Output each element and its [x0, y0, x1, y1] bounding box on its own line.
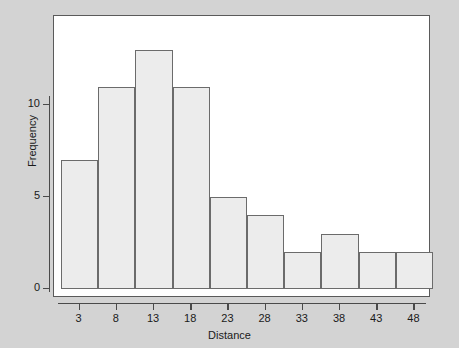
histogram-figure: 0510 Frequency 381318232833384348 Distan… — [0, 0, 459, 348]
y-axis-tick — [43, 288, 49, 289]
x-axis-tick-label: 43 — [361, 312, 391, 324]
y-axis-title: Frequency — [26, 101, 38, 181]
y-axis-tick — [43, 104, 49, 105]
x-axis-tick-label: 38 — [324, 312, 354, 324]
x-axis-tick — [79, 304, 80, 310]
histogram-bar — [247, 215, 284, 289]
histogram-bar — [396, 252, 433, 289]
y-axis-tick-label: 0 — [34, 281, 40, 293]
x-axis-tick-label: 18 — [175, 312, 205, 324]
x-axis-tick — [376, 304, 377, 310]
x-axis-line — [58, 303, 426, 304]
plot-area — [54, 16, 429, 296]
x-axis-tick-label: 23 — [212, 312, 242, 324]
y-axis-tick — [43, 196, 49, 197]
x-axis-tick — [265, 304, 266, 310]
x-axis-tick — [339, 304, 340, 310]
x-axis-tick-label: 48 — [398, 312, 428, 324]
histogram-bar — [98, 87, 135, 289]
histogram-bar — [135, 50, 172, 289]
histogram-bar — [359, 252, 396, 289]
x-axis-tick-label: 33 — [287, 312, 317, 324]
x-axis-title: Distance — [0, 329, 459, 341]
x-axis-tick — [190, 304, 191, 310]
histogram-bar — [210, 197, 247, 289]
histogram-bar — [173, 87, 210, 289]
x-axis-tick — [116, 304, 117, 310]
histogram-bar — [284, 252, 321, 289]
plot-frame — [53, 15, 430, 297]
histogram-bar — [321, 234, 358, 289]
x-axis-tick-label: 13 — [138, 312, 168, 324]
x-axis-tick-label: 3 — [64, 312, 94, 324]
x-axis-tick — [153, 304, 154, 310]
x-axis-tick — [227, 304, 228, 310]
y-axis-line — [49, 96, 50, 292]
x-axis-tick-label: 28 — [250, 312, 280, 324]
y-axis-tick-label: 5 — [34, 189, 40, 201]
histogram-bar — [61, 160, 98, 289]
x-axis-tick — [302, 304, 303, 310]
x-axis-tick — [413, 304, 414, 310]
x-axis-tick-label: 8 — [101, 312, 131, 324]
